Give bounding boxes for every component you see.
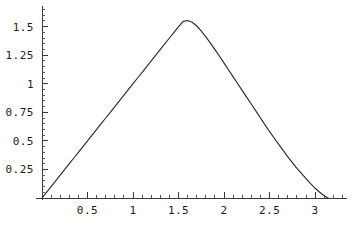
x-tick-label: 0.5 [77, 204, 98, 217]
y-tick-label: 1 [27, 78, 34, 91]
y-tick-label: 1.5 [13, 21, 34, 34]
plot-canvas: 0.250.50.7511.251.5 0.511.522.53 [0, 0, 353, 228]
x-tick-label: 1.5 [168, 204, 189, 217]
y-axis-group: 0.250.50.7511.251.5 [6, 6, 49, 200]
y-major-ticks [42, 27, 48, 170]
data-curve [42, 21, 328, 198]
x-axis-group: 0.511.522.53 [36, 192, 347, 217]
x-tick-labels: 0.511.522.53 [77, 204, 319, 217]
chart-svg: 0.250.50.7511.251.5 0.511.522.53 [0, 0, 353, 228]
x-tick-label: 2.5 [259, 204, 280, 217]
x-tick-label: 1 [129, 204, 136, 217]
y-tick-label: 1.25 [6, 49, 35, 62]
y-tick-label: 0.25 [6, 163, 35, 176]
x-major-ticks [88, 192, 316, 198]
x-tick-label: 2 [221, 204, 228, 217]
y-tick-label: 0.75 [6, 106, 35, 119]
y-tick-labels: 0.250.50.7511.251.5 [6, 21, 35, 177]
x-tick-label: 3 [312, 204, 319, 217]
y-tick-label: 0.5 [13, 135, 34, 148]
